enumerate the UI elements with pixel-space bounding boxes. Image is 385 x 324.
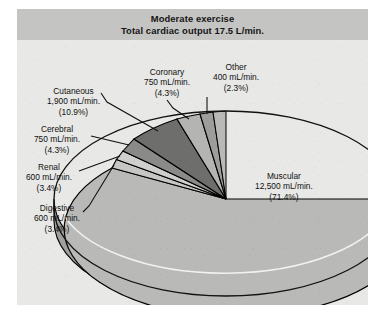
callout-coronary: Coronary 750 mL/min. (4.3%) — [144, 67, 190, 98]
callout-coronary-value: 750 mL/min. — [144, 77, 190, 87]
callout-cutaneous-percent: (10.9%) — [47, 107, 100, 117]
callout-digestive-percent: (3.4%) — [34, 224, 80, 234]
callout-muscular-percent: (71.4%) — [255, 192, 313, 202]
callout-other-name: Other — [213, 62, 259, 72]
figure-panel: Moderate exercise Total cardiac output 1… — [17, 9, 368, 305]
callout-other: Other 400 mL/min. (2.3%) — [213, 62, 259, 93]
callout-coronary-percent: (4.3%) — [144, 88, 190, 98]
callout-digestive: Digestive 600 mL/min. (3.4%) — [34, 203, 80, 234]
callout-digestive-name: Digestive — [34, 203, 80, 213]
callout-muscular-value: 12,500 mL/min. — [255, 181, 313, 191]
callout-renal: Renal 600 mL/min. (3.4%) — [26, 162, 72, 193]
leader-line-cutaneous — [101, 93, 158, 131]
callout-cutaneous-value: 1,900 mL/min. — [47, 96, 100, 106]
callout-coronary-name: Coronary — [144, 67, 190, 77]
callout-muscular: Muscular 12,500 mL/min. (71.4%) — [255, 171, 313, 202]
callout-cerebral-name: Cerebral — [34, 124, 80, 134]
callout-other-value: 400 mL/min. — [213, 72, 259, 82]
callout-cerebral: Cerebral 750 mL/min. (4.3%) — [34, 124, 80, 155]
callout-cutaneous: Cutaneous 1,900 mL/min. (10.9%) — [47, 86, 100, 117]
callout-renal-value: 600 mL/min. — [26, 172, 72, 182]
figure-title-line-1: Moderate exercise — [151, 13, 235, 26]
callout-renal-percent: (3.4%) — [26, 183, 72, 193]
figure-title-band: Moderate exercise Total cardiac output 1… — [17, 9, 368, 40]
callout-other-percent: (2.3%) — [213, 83, 259, 93]
callout-cutaneous-name: Cutaneous — [47, 86, 100, 96]
callout-renal-name: Renal — [26, 162, 72, 172]
callout-cerebral-percent: (4.3%) — [34, 145, 80, 155]
figure-title-line-2: Total cardiac output 17.5 L/min. — [121, 25, 264, 38]
callout-cerebral-value: 750 mL/min. — [34, 134, 80, 144]
callout-muscular-name: Muscular — [255, 171, 313, 181]
callout-digestive-value: 600 mL/min. — [34, 213, 80, 223]
pie-chart-stage: Cutaneous 1,900 mL/min. (10.9%) Cerebral… — [17, 40, 368, 305]
